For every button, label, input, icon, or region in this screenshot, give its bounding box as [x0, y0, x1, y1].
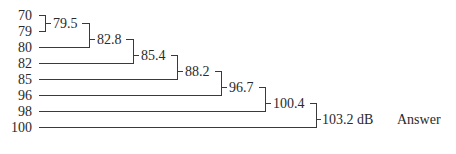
sum-label-79-5: 79.5	[53, 16, 78, 31]
input-label-85: 85	[18, 72, 32, 87]
sum-label-88-2: 88.2	[185, 64, 210, 79]
sum-label-85-4: 85.4	[141, 48, 166, 63]
input-label-70: 70	[18, 8, 32, 23]
answer-label: Answer	[397, 112, 441, 127]
sum-label-96-7: 96.7	[229, 80, 254, 95]
input-label-79: 79	[18, 24, 32, 39]
input-label-96: 96	[18, 88, 32, 103]
decibel-sum-diagram: 70 79 80 82 85 96 98 100 79.5 82.8 85.4 …	[0, 0, 456, 154]
bracket-1	[39, 15, 51, 32]
sum-label-82-8: 82.8	[97, 32, 122, 47]
sum-label-103-2-db: 103.2 dB	[322, 112, 373, 127]
input-label-82: 82	[18, 56, 32, 71]
input-label-80: 80	[18, 40, 32, 55]
sum-label-100-4: 100.4	[273, 96, 305, 111]
input-label-98: 98	[18, 104, 32, 119]
input-label-100: 100	[11, 120, 32, 135]
